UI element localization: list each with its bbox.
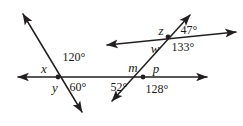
angle-label-x: x — [41, 62, 47, 75]
angle-label-m: m — [128, 61, 137, 74]
diagram-canvas — [0, 0, 243, 126]
angle-label-p: p — [153, 62, 160, 75]
angle-value-120: 120° — [63, 51, 86, 63]
angle-value-52: 52° — [111, 81, 128, 93]
angle-value-47: 47° — [181, 24, 198, 36]
middle-intersection-point — [141, 75, 146, 80]
angle-label-y: y — [52, 81, 58, 94]
geometry-diagram: x y m p z w 120° 60° 52° 128° 47° 133° — [0, 0, 243, 126]
angle-value-128: 128° — [146, 83, 169, 95]
angle-label-w: w — [151, 42, 160, 55]
angle-value-60: 60° — [70, 81, 87, 93]
angle-value-133: 133° — [172, 41, 195, 53]
upper-right-intersection-point — [166, 35, 171, 40]
angle-label-z: z — [158, 24, 163, 37]
